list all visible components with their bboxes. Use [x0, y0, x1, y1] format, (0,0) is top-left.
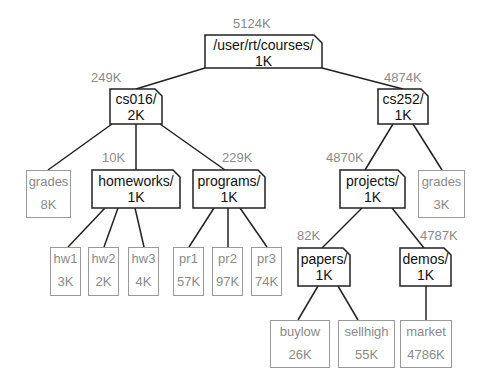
- folder-cs016[interactable]: cs016/ 2K: [110, 89, 162, 124]
- file-name: pr1: [174, 251, 203, 266]
- file-name: hw2: [89, 251, 118, 266]
- papers-total: 82K: [297, 228, 320, 243]
- folder-name: /user/rt/courses/: [205, 37, 322, 53]
- file-name: pr2: [213, 251, 242, 266]
- file-name: hw1: [51, 251, 80, 266]
- file-name: hw3: [129, 251, 158, 266]
- file-size: 4786K: [401, 347, 451, 362]
- folder-programs[interactable]: programs/ 1K: [193, 170, 265, 208]
- folder-size: 1K: [400, 267, 451, 283]
- file-size: 57K: [174, 274, 203, 289]
- file-pr2[interactable]: pr2 97K: [212, 247, 243, 296]
- folder-size: 1K: [205, 53, 322, 69]
- folder-name: programs/: [193, 173, 265, 189]
- folder-name: projects/: [340, 173, 405, 189]
- folder-name: demos/: [400, 251, 451, 267]
- file-buylow[interactable]: buylow 26K: [270, 320, 330, 368]
- file-pr1[interactable]: pr1 57K: [173, 247, 204, 296]
- file-size: 3K: [419, 197, 464, 212]
- folder-homeworks[interactable]: homeworks/ 1K: [92, 170, 180, 208]
- demos-total: 4787K: [420, 228, 458, 243]
- file-size: 74K: [252, 274, 281, 289]
- folder-papers[interactable]: papers/ 1K: [298, 248, 350, 286]
- folder-name: papers/: [298, 251, 350, 267]
- folder-size: 1K: [92, 189, 180, 205]
- file-size: 4K: [129, 274, 158, 289]
- folder-demos[interactable]: demos/ 1K: [400, 248, 451, 286]
- cs016-total: 249K: [91, 70, 121, 85]
- file-market[interactable]: market 4786K: [400, 320, 452, 368]
- homeworks-total: 10K: [102, 150, 125, 165]
- folder-name: cs016/: [110, 91, 162, 107]
- root-total: 5124K: [233, 16, 271, 31]
- file-hw2[interactable]: hw2 2K: [88, 247, 119, 296]
- file-size: 55K: [339, 347, 394, 362]
- projects-total: 4870K: [326, 150, 364, 165]
- folder-name: homeworks/: [92, 173, 180, 189]
- folder-size: 1K: [340, 189, 405, 205]
- file-size: 26K: [271, 347, 329, 362]
- file-grades-cs016[interactable]: grades 8K: [26, 170, 71, 218]
- folder-size: 1K: [378, 107, 428, 123]
- folder-projects[interactable]: projects/ 1K: [340, 170, 405, 208]
- file-size: 2K: [89, 274, 118, 289]
- cs252-total: 4874K: [384, 70, 422, 85]
- file-size: 8K: [27, 197, 70, 212]
- file-pr3[interactable]: pr3 74K: [251, 247, 282, 296]
- file-name: market: [401, 324, 451, 339]
- folder-cs252[interactable]: cs252/ 1K: [378, 89, 428, 124]
- folder-name: cs252/: [378, 91, 428, 107]
- file-size: 3K: [51, 274, 80, 289]
- file-name: pr3: [252, 251, 281, 266]
- file-hw1[interactable]: hw1 3K: [50, 247, 81, 296]
- file-name: sellhigh: [339, 324, 394, 339]
- folder-root[interactable]: /user/rt/courses/ 1K: [205, 35, 322, 68]
- file-name: grades: [27, 174, 70, 189]
- file-grades-cs252[interactable]: grades 3K: [418, 170, 465, 218]
- file-hw3[interactable]: hw3 4K: [128, 247, 159, 296]
- folder-size: 2K: [110, 107, 162, 123]
- folder-size: 1K: [298, 267, 350, 283]
- programs-total: 229K: [222, 150, 252, 165]
- folder-size: 1K: [193, 189, 265, 205]
- file-name: buylow: [271, 324, 329, 339]
- file-sellhigh[interactable]: sellhigh 55K: [338, 320, 395, 368]
- file-size: 97K: [213, 274, 242, 289]
- file-name: grades: [419, 174, 464, 189]
